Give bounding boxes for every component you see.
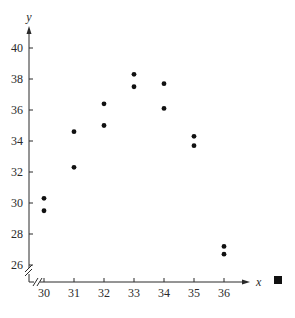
y-axis-label: y: [25, 10, 32, 24]
data-point: [132, 84, 137, 89]
y-tick-label: 34: [11, 134, 23, 148]
data-point: [102, 123, 107, 128]
data-point: [192, 143, 197, 148]
data-point: [162, 106, 167, 111]
ticks: 262830323436384030313233343536: [11, 41, 230, 300]
x-tick-label: 31: [68, 286, 80, 300]
y-tick-label: 28: [11, 227, 23, 241]
y-tick-label: 30: [11, 196, 23, 210]
axes: [25, 26, 250, 286]
y-tick-label: 32: [11, 165, 23, 179]
data-point: [42, 196, 47, 201]
x-tick-label: 35: [188, 286, 200, 300]
x-tick-label: 34: [158, 286, 170, 300]
data-points: [42, 72, 227, 257]
data-point: [102, 101, 107, 106]
data-point: [72, 129, 77, 134]
y-tick-label: 36: [11, 103, 23, 117]
y-tick-label: 26: [11, 258, 23, 272]
data-point: [42, 208, 47, 213]
y-tick-label: 40: [11, 41, 23, 55]
data-point: [162, 81, 167, 86]
x-axis-label: x: [255, 275, 262, 289]
data-point: [222, 252, 227, 257]
x-tick-label: 36: [218, 286, 230, 300]
x-tick-label: 32: [98, 286, 110, 300]
data-point: [222, 244, 227, 249]
x-tick-label: 30: [38, 286, 50, 300]
data-point: [72, 165, 77, 170]
x-tick-label: 33: [128, 286, 140, 300]
y-tick-label: 38: [11, 72, 23, 86]
data-point: [132, 72, 137, 77]
scatter-chart: 262830323436384030313233343536 y x: [0, 0, 295, 318]
end-of-figure-square-icon: [274, 276, 282, 284]
data-point: [192, 134, 197, 139]
